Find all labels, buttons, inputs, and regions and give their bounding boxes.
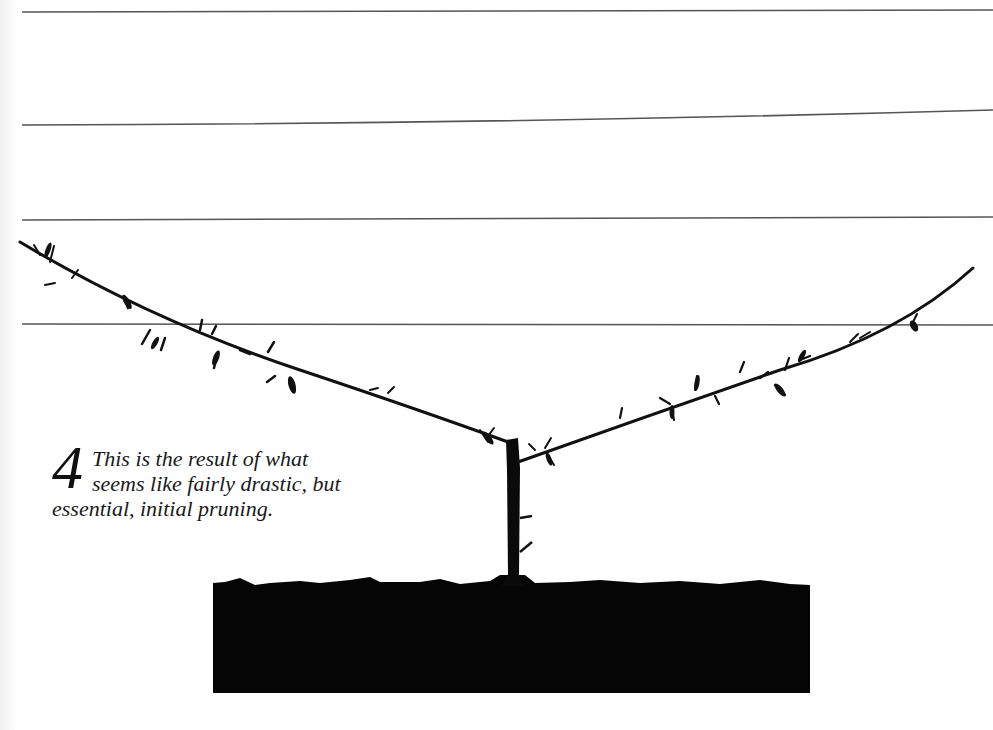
left-arm	[20, 242, 508, 442]
wire-1	[22, 10, 993, 12]
right-arm	[518, 268, 973, 465]
support-wires	[22, 10, 993, 325]
caption-line-3: essential, initial pruning.	[52, 496, 273, 521]
wire-4	[22, 324, 993, 325]
wire-3	[22, 217, 993, 220]
espalier-illustration	[0, 0, 993, 730]
right-arm-leaves	[544, 319, 920, 466]
trunk-shoots	[520, 516, 532, 552]
step-number: 4	[52, 436, 83, 498]
wire-2	[22, 110, 993, 125]
left-arm-leaves	[43, 242, 496, 446]
soil-block	[213, 575, 810, 693]
caption-line-2: seems like fairly drastic, but	[92, 471, 341, 496]
caption-line-1: This is the result of what	[92, 446, 308, 471]
